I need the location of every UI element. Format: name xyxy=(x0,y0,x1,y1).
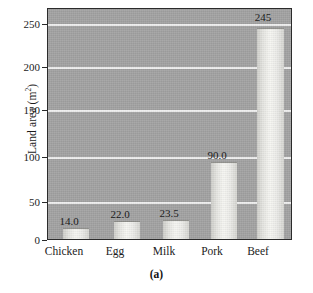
y-axis-title-text: Land area (m xyxy=(26,92,38,155)
bar-chicken[interactable] xyxy=(63,228,89,240)
bar-value-chicken: 14.0 xyxy=(44,215,94,227)
y-tick-mark-0 xyxy=(42,240,47,241)
y-tick-label-150: 150 xyxy=(14,104,40,116)
bar-beef[interactable] xyxy=(257,28,284,240)
figure-caption: (a) xyxy=(0,268,313,280)
gridline-50 xyxy=(48,202,291,204)
gridline-100 xyxy=(48,157,291,159)
y-tick-label-100: 100 xyxy=(14,151,40,163)
y-tick-label-250: 250 xyxy=(14,18,40,30)
gridline-250 xyxy=(48,24,291,26)
bar-value-beef: 245 xyxy=(238,11,288,23)
y-tick-label-200: 200 xyxy=(14,61,40,73)
figure-bar-chart: Land area (m2) 250 200 150 100 50 0 14.0… xyxy=(0,0,313,293)
y-axis-title-superscript: 2 xyxy=(24,88,33,92)
bar-milk[interactable] xyxy=(163,220,189,240)
gridline-200 xyxy=(48,67,291,69)
gridline-150 xyxy=(48,110,291,112)
y-axis-title-paren: ) xyxy=(26,84,38,88)
y-tick-label-50: 50 xyxy=(14,196,40,208)
bar-value-milk: 23.5 xyxy=(144,207,194,219)
bar-value-egg: 22.0 xyxy=(95,208,145,220)
x-category-label-beef: Beef xyxy=(228,245,288,257)
bar-egg[interactable] xyxy=(114,221,140,240)
bar-pork[interactable] xyxy=(211,162,237,240)
bar-value-pork: 90.0 xyxy=(192,149,242,161)
plot-area xyxy=(47,8,292,240)
